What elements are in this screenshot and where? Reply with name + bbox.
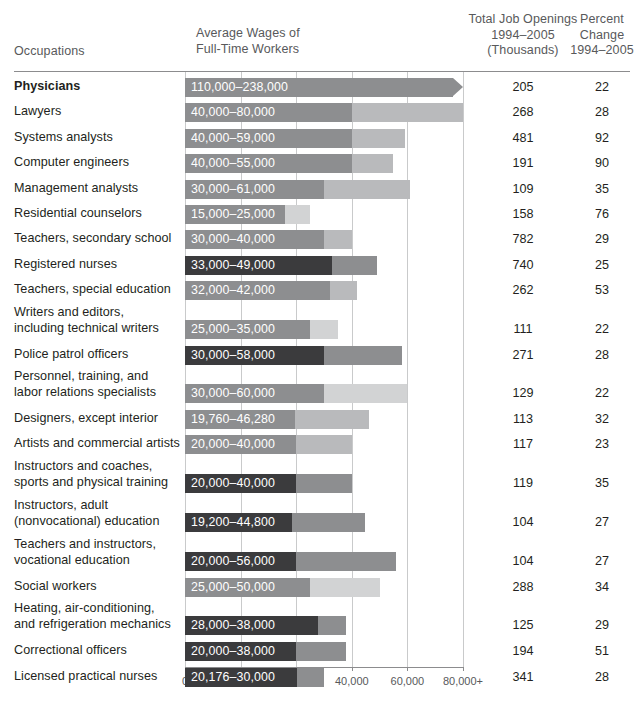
total-job-openings-value: 205 — [468, 80, 578, 94]
percent-change-value: 32 — [564, 412, 640, 426]
occupation-label: Heating, air-conditioning,and refrigerat… — [14, 600, 171, 632]
wage-range-bar[interactable]: 30,000–61,000 — [185, 180, 410, 199]
percent-change-value: 35 — [564, 182, 640, 196]
bar-segment-light — [352, 154, 394, 173]
total-job-openings-value: 262 — [468, 283, 578, 297]
percent-change-value: 25 — [564, 258, 640, 272]
bar-segment-light — [297, 668, 324, 687]
bar-segment-light — [324, 346, 402, 365]
wage-range-bar[interactable]: 110,000–238,000 — [185, 78, 453, 97]
wage-range-bar[interactable]: 40,000–80,000 — [185, 103, 463, 122]
percent-change-value: 29 — [564, 618, 640, 632]
bar-segment-light — [310, 320, 338, 339]
column-header-percent-line3: 1994–2005 — [564, 43, 640, 59]
column-header-percent-change: Percent Change 1994–2005 — [564, 12, 640, 59]
total-job-openings-value: 125 — [468, 618, 578, 632]
wage-range-label: 110,000–238,000 — [191, 78, 288, 97]
total-job-openings-value: 341 — [468, 670, 578, 684]
wage-range-label: 25,000–35,000 — [191, 320, 275, 339]
wage-range-bar[interactable]: 32,000–42,000 — [185, 281, 357, 300]
wage-range-bar[interactable]: 40,000–59,000 — [185, 129, 405, 148]
total-job-openings-value: 268 — [468, 105, 578, 119]
total-job-openings-value: 481 — [468, 131, 578, 145]
gridline — [463, 72, 464, 667]
wage-range-bar[interactable]: 28,000–38,000 — [185, 616, 346, 635]
column-header-openings-line3: (Thousands) — [468, 43, 578, 59]
wage-range-bar[interactable]: 30,000–40,000 — [185, 230, 352, 249]
occupation-label: Lawyers — [14, 103, 61, 119]
total-job-openings-value: 113 — [468, 412, 578, 426]
total-job-openings-value: 117 — [468, 437, 578, 451]
bar-segment-light — [295, 410, 369, 429]
wage-range-label: 20,000–38,000 — [191, 642, 275, 661]
bar-segment-light — [310, 578, 380, 597]
x-axis-tick — [352, 667, 353, 671]
occupation-label: Correctional officers — [14, 642, 127, 658]
x-axis-tick-label: 60,000 — [391, 675, 425, 687]
x-axis-tick — [463, 667, 464, 671]
bar-segment-light — [324, 180, 410, 199]
percent-change-value: 51 — [564, 644, 640, 658]
wage-range-bar[interactable]: 25,000–35,000 — [185, 320, 338, 339]
bar-segment-light — [352, 103, 463, 122]
total-job-openings-value: 104 — [468, 515, 578, 529]
wage-range-label: 30,000–40,000 — [191, 230, 275, 249]
wage-range-bar[interactable]: 33,000–49,000 — [185, 256, 377, 275]
occupation-label: Computer engineers — [14, 154, 129, 170]
wage-range-bar[interactable]: 15,000–25,000 — [185, 205, 310, 224]
occupation-label: Instructors, adult(nonvocational) educat… — [14, 497, 159, 529]
occupation-label: Writers and editors,including technical … — [14, 304, 159, 336]
wage-range-bar[interactable]: 20,000–40,000 — [185, 474, 352, 493]
percent-change-value: 28 — [564, 670, 640, 684]
total-job-openings-value: 111 — [468, 322, 578, 336]
percent-change-value: 27 — [564, 554, 640, 568]
occupation-label: Residential counselors — [14, 205, 142, 221]
wage-range-label: 20,176–30,000 — [191, 668, 275, 687]
total-job-openings-value: 104 — [468, 554, 578, 568]
total-job-openings-value: 194 — [468, 644, 578, 658]
total-job-openings-value: 158 — [468, 207, 578, 221]
percent-change-value: 92 — [564, 131, 640, 145]
bar-segment-light — [285, 205, 310, 224]
total-job-openings-value: 119 — [468, 476, 578, 490]
wage-range-bar[interactable]: 19,760–46,280 — [185, 410, 369, 429]
percent-change-value: 29 — [564, 232, 640, 246]
column-header-occupations: Occupations — [14, 44, 85, 58]
wage-range-bar[interactable]: 25,000–50,000 — [185, 578, 380, 597]
x-axis-tick — [407, 667, 408, 671]
occupation-label: Personnel, training, andlabor relations … — [14, 368, 156, 400]
percent-change-value: 90 — [564, 156, 640, 170]
percent-change-value: 28 — [564, 105, 640, 119]
wage-range-bar[interactable]: 40,000–55,000 — [185, 154, 394, 173]
total-job-openings-value: 109 — [468, 182, 578, 196]
wage-range-bar[interactable]: 30,000–60,000 — [185, 384, 407, 403]
wage-range-label: 28,000–38,000 — [191, 616, 275, 635]
wage-range-bar[interactable]: 20,000–56,000 — [185, 552, 396, 571]
percent-change-value: 22 — [564, 386, 640, 400]
occupation-label: Artists and commercial artists — [14, 435, 180, 451]
occupation-label: Licensed practical nurses — [14, 668, 157, 684]
wage-range-label: 33,000–49,000 — [191, 256, 275, 275]
bar-segment-light — [332, 256, 376, 275]
percent-change-value: 28 — [564, 348, 640, 362]
wage-range-label: 15,000–25,000 — [191, 205, 275, 224]
percent-change-value: 27 — [564, 515, 640, 529]
wage-range-bar[interactable]: 19,200–44,800 — [185, 513, 365, 532]
wage-range-bar[interactable]: 20,000–40,000 — [185, 435, 352, 454]
wage-range-label: 20,000–40,000 — [191, 474, 275, 493]
wage-range-label: 40,000–55,000 — [191, 154, 275, 173]
bar-segment-light — [330, 281, 358, 300]
wage-range-label: 30,000–58,000 — [191, 346, 275, 365]
total-job-openings-value: 271 — [468, 348, 578, 362]
x-axis-tick-label: 40,000 — [335, 675, 369, 687]
wage-range-label: 32,000–42,000 — [191, 281, 275, 300]
bar-segment-light — [324, 384, 407, 403]
wage-range-bar[interactable]: 20,176–30,000 — [185, 668, 324, 687]
wage-range-bar[interactable]: 20,000–38,000 — [185, 642, 346, 661]
wage-range-bar[interactable]: 30,000–58,000 — [185, 346, 402, 365]
percent-change-value: 53 — [564, 283, 640, 297]
column-header-openings-line1: Total Job Openings — [468, 12, 578, 28]
bar-overflow-arrow-icon — [453, 78, 463, 96]
occupation-label: Social workers — [14, 578, 97, 594]
occupation-label: Designers, except interior — [14, 410, 158, 426]
